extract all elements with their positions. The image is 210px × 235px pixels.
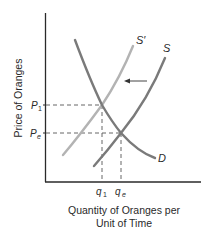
svg-text:1: 1	[103, 191, 107, 198]
svg-text:e: e	[122, 191, 126, 198]
x-axis-title-line2: Unit of Time	[96, 217, 152, 229]
y-tick-p1: P 1	[31, 100, 42, 112]
label-d: D	[158, 152, 166, 164]
svg-text:e: e	[37, 133, 41, 140]
y-axis-title: Price of Oranges	[12, 59, 24, 138]
svg-text:P: P	[30, 128, 37, 139]
shift-arrow-icon	[124, 79, 147, 84]
supply-curve-shifted	[63, 46, 133, 155]
x-axis-title-line1: Quantity of Oranges per	[68, 204, 181, 216]
svg-text:1: 1	[38, 105, 42, 112]
label-s-prime: S′	[136, 34, 146, 46]
svg-text:q: q	[96, 186, 102, 197]
x-tick-qe: q e	[115, 186, 126, 198]
x-tick-q1: q 1	[96, 186, 107, 198]
svg-text:q: q	[115, 186, 121, 197]
y-tick-pe: P e	[30, 128, 41, 140]
label-s: S	[163, 42, 171, 54]
svg-text:P: P	[31, 100, 38, 111]
supply-curve	[94, 58, 165, 166]
supply-demand-chart: S′ S D P 1 P e q 1 q e Price of Oranges …	[0, 0, 210, 235]
